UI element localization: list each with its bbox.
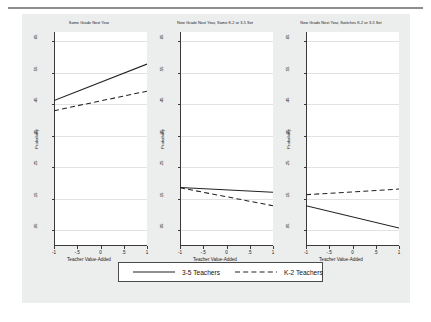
multi-panel-line-chart: Same Grade Next YearProbability.05.15.25…: [22, 14, 410, 303]
y-tick-label: .55: [32, 67, 38, 72]
x-tick-mark: [101, 246, 102, 249]
x-tick-mark: [306, 246, 307, 249]
y-tick-label: .05: [284, 224, 290, 229]
y-tick-label: .15: [284, 193, 290, 198]
legend-key-dashed: [235, 268, 277, 276]
y-tick-label: .35: [158, 130, 164, 135]
x-tick-mark: [203, 246, 204, 249]
figure-panel: Same Grade Next YearProbability.05.15.25…: [22, 14, 410, 303]
legend-entry-k2-teachers: K-2 Teachers: [235, 268, 323, 276]
legend-entry-35-teachers: 3-5 Teachers: [133, 268, 220, 276]
series-clip: [180, 32, 273, 246]
x-tick-label: -1: [178, 250, 182, 255]
series-line-35: [306, 206, 399, 228]
x-tick-mark: [250, 246, 251, 249]
x-tick-mark: [227, 246, 228, 249]
y-tick-label: .65: [158, 35, 164, 40]
x-tick-label: -.5: [75, 250, 80, 255]
y-tick-label: .35: [32, 130, 38, 135]
y-tick-label: .35: [284, 130, 290, 135]
x-tick-label: 1: [146, 250, 149, 255]
chart-panel-1: Same Grade Next YearProbability.05.15.25…: [26, 20, 152, 260]
x-tick-mark: [273, 246, 274, 249]
y-tick-label: .25: [32, 161, 38, 166]
y-tick-label: .65: [284, 35, 290, 40]
y-tick-label: .25: [158, 161, 164, 166]
series-line-k2: [180, 188, 273, 206]
x-tick-label: .5: [374, 250, 378, 255]
x-tick-mark: [329, 246, 330, 249]
series-clip: [306, 32, 399, 246]
x-tick-mark: [353, 246, 354, 249]
series-layer: [180, 32, 273, 246]
x-tick-label: 1: [398, 250, 401, 255]
x-tick-label: 1: [272, 250, 275, 255]
y-tick-label: .15: [158, 193, 164, 198]
chart-legend: 3-5 TeachersK-2 Teachers: [118, 262, 323, 282]
series-layer: [54, 32, 147, 246]
panel-title: New Grade Next Year, Switches K-2 or 3-5…: [278, 20, 404, 25]
y-tick-label: .55: [158, 67, 164, 72]
series-line-35: [180, 187, 273, 192]
y-tick-label: .15: [32, 193, 38, 198]
panel-title: New Grade Next Year, Same K-2 or 3-5 Set: [152, 20, 278, 25]
y-tick-label: .25: [284, 161, 290, 166]
x-tick-mark: [54, 246, 55, 249]
x-tick-label: 0: [99, 250, 102, 255]
y-tick-label: .45: [158, 98, 164, 103]
series-line-k2: [54, 91, 147, 111]
x-tick-label: -1: [304, 250, 308, 255]
y-tick-label: .05: [158, 224, 164, 229]
x-tick-label: .5: [248, 250, 252, 255]
x-tick-label: 0: [351, 250, 354, 255]
y-tick-label: .55: [284, 67, 290, 72]
x-tick-label: -1: [52, 250, 56, 255]
series-layer: [306, 32, 399, 246]
series-line-k2: [306, 189, 399, 195]
y-tick-label: .05: [32, 224, 38, 229]
panel-title: Same Grade Next Year: [26, 20, 152, 25]
x-tick-mark: [124, 246, 125, 249]
chart-panel-2: New Grade Next Year, Same K-2 or 3-5 Set…: [152, 20, 278, 260]
series-line-35: [54, 64, 147, 101]
legend-label: K-2 Teachers: [284, 269, 323, 276]
x-tick-label: -.5: [201, 250, 206, 255]
x-tick-mark: [376, 246, 377, 249]
legend-key-solid: [133, 268, 175, 276]
series-clip: [54, 32, 147, 246]
legend-label: 3-5 Teachers: [182, 269, 220, 276]
x-tick-mark: [147, 246, 148, 249]
y-tick-label: .65: [32, 35, 38, 40]
x-tick-mark: [77, 246, 78, 249]
x-tick-mark: [399, 246, 400, 249]
x-tick-mark: [180, 246, 181, 249]
chart-panel-3: New Grade Next Year, Switches K-2 or 3-5…: [278, 20, 404, 260]
page-top-rule: [8, 7, 423, 9]
x-tick-label: 0: [225, 250, 228, 255]
y-tick-label: .45: [284, 98, 290, 103]
x-tick-label: .5: [122, 250, 126, 255]
y-tick-label: .45: [32, 98, 38, 103]
x-tick-label: -.5: [327, 250, 332, 255]
